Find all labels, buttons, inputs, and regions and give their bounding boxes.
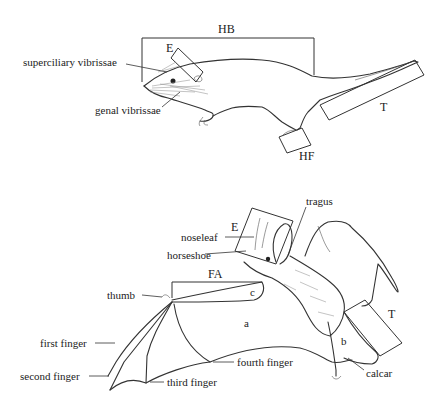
bat-thumb — [162, 295, 170, 298]
rodent-t-label: T — [380, 100, 388, 114]
bat-tail — [344, 312, 378, 364]
tragus-leader — [288, 207, 306, 255]
bat-first-finger — [108, 302, 172, 376]
a-label: a — [244, 317, 249, 329]
thumb-leader — [142, 295, 162, 297]
bat-fur — [284, 270, 334, 316]
bat-second-finger — [110, 302, 172, 390]
tail-box — [320, 60, 424, 120]
bat-hind-foot — [332, 376, 341, 379]
thumb-label: thumb — [107, 289, 136, 301]
morphometric-diagram: HB E T HF superciliary vibrissae — [0, 0, 443, 411]
rodent-figure: HB E T HF superciliary vibrissae — [23, 22, 424, 163]
second-finger-label: second finger — [20, 370, 80, 382]
third-finger-label: third finger — [167, 376, 217, 388]
tragus-label: tragus — [306, 195, 333, 207]
fourth-finger-label: fourth finger — [237, 356, 293, 368]
bat-hind-leg — [328, 322, 336, 376]
horseshoe-label: horseshoe — [167, 249, 211, 261]
bat-figure: E tragus noseleaf horseshoe FA c — [20, 195, 402, 390]
hb-label: HB — [218, 22, 235, 36]
calcar-label: calcar — [366, 367, 393, 379]
superciliary-leader — [126, 64, 167, 72]
noseleaf-label: noseleaf — [181, 231, 218, 243]
superciliary-label: superciliary vibrissae — [23, 56, 117, 68]
bat-far-wing — [305, 221, 398, 306]
bat-t-label: T — [388, 307, 396, 321]
rodent-belly-2 — [213, 106, 296, 130]
bat-third-finger — [146, 302, 172, 383]
bat-fourth-finger — [174, 304, 210, 362]
bat-noseleaf — [255, 218, 268, 250]
genal-label: genal vibrissae — [95, 104, 161, 116]
bat-body — [244, 256, 344, 336]
first-finger-label: first finger — [40, 337, 87, 349]
bat-far-wing-arm — [318, 226, 330, 252]
fa-label: FA — [208, 267, 223, 281]
rodent-body — [144, 59, 418, 130]
bat-e-label: E — [231, 220, 238, 234]
b-label: b — [341, 335, 347, 347]
e-label: E — [166, 41, 173, 55]
genal-leader — [162, 92, 180, 107]
calcar-leader — [348, 358, 364, 370]
c-label: c — [250, 286, 255, 298]
hf-label: HF — [299, 149, 315, 163]
bat-eye — [266, 257, 270, 261]
